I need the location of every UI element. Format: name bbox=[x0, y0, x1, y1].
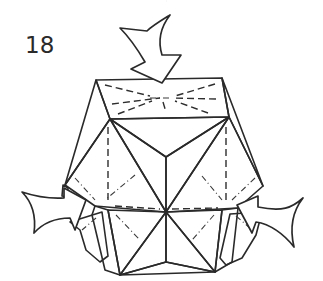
push-arrow-right-icon bbox=[237, 196, 303, 247]
center-triangle-top bbox=[110, 117, 229, 157]
lower-right-face bbox=[166, 210, 222, 272]
right-big-face bbox=[166, 117, 263, 212]
right-slope-face bbox=[222, 78, 263, 186]
origami-model bbox=[0, 0, 323, 281]
left-slope-face bbox=[65, 80, 110, 185]
lower-right-panel bbox=[215, 208, 238, 272]
lower-center-left bbox=[120, 212, 166, 275]
diagram-canvas: 18 bbox=[0, 0, 323, 281]
push-arrow-left-icon bbox=[22, 188, 86, 233]
fold-lines bbox=[75, 1, 255, 240]
lower-center-bottom bbox=[120, 262, 215, 275]
push-arrow-top-icon bbox=[120, 15, 181, 83]
